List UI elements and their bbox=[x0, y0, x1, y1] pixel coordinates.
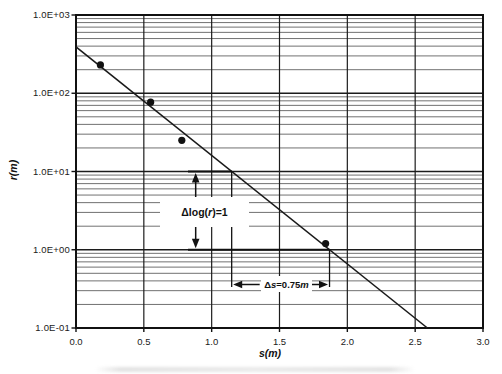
x-tick-label: 3.0 bbox=[468, 336, 498, 348]
annotation-delta-log-r: Δlog(r)=1 bbox=[160, 197, 249, 227]
data-point bbox=[147, 99, 154, 106]
y-tick-label: 1.0E-01 bbox=[24, 321, 70, 335]
plot-area bbox=[0, 0, 502, 374]
data-point bbox=[322, 240, 329, 247]
x-axis-title: s(m) bbox=[240, 347, 300, 360]
x-tick-label: 0.0 bbox=[61, 336, 91, 348]
y-tick-label: 1.0E+03 bbox=[24, 8, 70, 22]
x-tick-label: 1.0 bbox=[197, 336, 227, 348]
data-point bbox=[97, 61, 104, 68]
annotation-delta-s: Δs=0.75 m bbox=[261, 276, 312, 292]
semilog-chart-figure: 1.0E+031.0E+021.0E+011.0E+001.0E-01 0.00… bbox=[0, 0, 502, 374]
y-tick-label: 1.0E+02 bbox=[24, 86, 70, 100]
annotation-delta-s-pre: Δ bbox=[264, 279, 271, 290]
y-tick-label: 1.0E+00 bbox=[24, 243, 70, 257]
x-tick-label: 2.5 bbox=[400, 336, 430, 348]
x-tick-label: 0.5 bbox=[129, 336, 159, 348]
annotation-delta-s-unit: m bbox=[300, 279, 308, 290]
fit-line bbox=[76, 47, 427, 328]
data-point bbox=[178, 137, 185, 144]
annotation-delta-s-mid: =0.75 bbox=[276, 279, 300, 290]
annotation-delta-log-r-pre: Δlog( bbox=[181, 206, 208, 218]
cropped-caption-smudge bbox=[95, 367, 415, 372]
x-tick-label: 2.0 bbox=[332, 336, 362, 348]
y-tick-label: 1.0E+01 bbox=[24, 165, 70, 179]
annotation-delta-log-r-post: )=1 bbox=[212, 206, 227, 218]
y-axis-title: r(m) bbox=[6, 148, 20, 192]
